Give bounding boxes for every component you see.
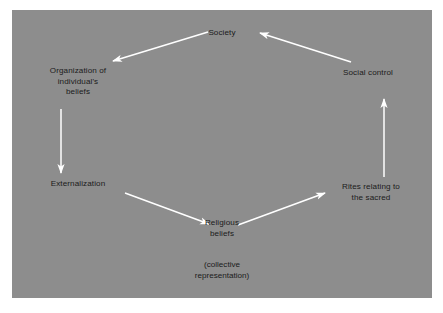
node-society-line-1: Society — [162, 28, 282, 39]
node-organization: Organization of individual's beliefs — [14, 66, 142, 98]
node-rites-line-1: Rites relating to — [312, 182, 430, 193]
note-collective-representation-line-1: (collective — [162, 260, 282, 271]
node-rites-line-2: the sacred — [312, 193, 430, 204]
node-society: Society — [162, 28, 282, 39]
diagram-edges — [12, 10, 432, 298]
node-organization-line-1: Organization of — [14, 66, 142, 77]
node-organization-line-2: individual's — [14, 77, 142, 88]
node-organization-line-3: beliefs — [14, 87, 142, 98]
note-collective-representation-line-2: representation) — [162, 271, 282, 282]
node-rites: Rites relating to the sacred — [312, 182, 430, 203]
node-religious-beliefs-line-1: Religious — [162, 218, 282, 229]
figure-canvas: Society Organization of individual's bel… — [0, 0, 443, 313]
node-externalization: Externalization — [18, 179, 138, 190]
node-externalization-line-1: Externalization — [18, 179, 138, 190]
note-collective-representation: (collective representation) — [162, 260, 282, 281]
diagram-panel: Society Organization of individual's bel… — [12, 10, 432, 298]
node-religious-beliefs: Religious beliefs — [162, 218, 282, 239]
node-religious-beliefs-line-2: beliefs — [162, 229, 282, 240]
node-social-control: Social control — [308, 68, 428, 79]
node-social-control-line-1: Social control — [308, 68, 428, 79]
